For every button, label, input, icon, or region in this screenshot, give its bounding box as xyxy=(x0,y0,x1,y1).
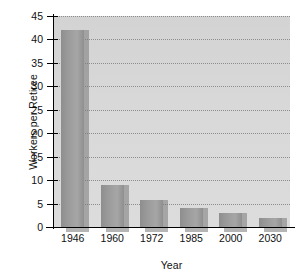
bar-chart: Workers per Retiree Year 051015202530354… xyxy=(0,0,305,280)
y-axis-tick xyxy=(47,86,58,87)
y-axis-tick-label: 35 xyxy=(3,57,43,69)
plot-area xyxy=(53,16,290,227)
y-axis-tick-label: 25 xyxy=(3,104,43,116)
bar-1972 xyxy=(140,200,163,227)
gridline xyxy=(53,16,290,17)
y-axis-tick-label: 5 xyxy=(3,198,43,210)
bar-1946 xyxy=(61,30,84,227)
y-axis-tick-label: 10 xyxy=(3,174,43,186)
y-axis-tick xyxy=(47,180,58,181)
y-axis-tick-label: 45 xyxy=(3,10,43,22)
y-axis-line xyxy=(53,14,54,229)
bar-1985 xyxy=(180,208,203,227)
gridline xyxy=(53,63,290,64)
y-axis-tick-label: 0 xyxy=(3,221,43,233)
y-axis-tick-label: 30 xyxy=(3,80,43,92)
y-axis-tick-label: 20 xyxy=(3,127,43,139)
gridline xyxy=(53,204,290,205)
y-axis-tick xyxy=(47,157,58,158)
bar-2030 xyxy=(259,218,282,227)
y-axis-tick xyxy=(47,227,58,228)
gridline xyxy=(53,133,290,134)
x-axis-tick-label: 2000 xyxy=(219,232,242,244)
y-axis-tick xyxy=(47,133,58,134)
y-axis-tick xyxy=(47,204,58,205)
y-axis-tick-label: 40 xyxy=(3,33,43,45)
y-axis-tick xyxy=(47,110,58,111)
x-axis-tick-label: 1985 xyxy=(180,232,203,244)
y-axis-tick xyxy=(47,63,58,64)
x-axis-tick-label: 2030 xyxy=(259,232,282,244)
x-axis-title: Year xyxy=(53,259,290,271)
x-axis-line xyxy=(46,227,295,228)
gridline xyxy=(53,86,290,87)
bar-2000 xyxy=(219,213,242,227)
gridline xyxy=(53,180,290,181)
x-axis-tick-label: 1972 xyxy=(140,232,163,244)
bar-1960 xyxy=(101,185,124,227)
y-axis-tick-label: 15 xyxy=(3,151,43,163)
gridline xyxy=(53,110,290,111)
gridline xyxy=(53,157,290,158)
y-axis-tick xyxy=(47,39,58,40)
gridline xyxy=(53,39,290,40)
y-axis-tick xyxy=(47,16,58,17)
x-axis-tick-label: 1946 xyxy=(61,232,84,244)
x-axis-tick-label: 1960 xyxy=(101,232,124,244)
